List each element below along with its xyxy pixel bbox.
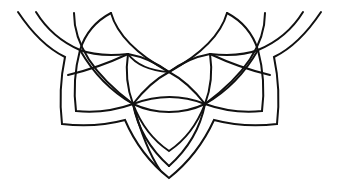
left-band-lower-cross [133,104,205,112]
left-wing-side [133,97,205,104]
outer-band-outer-line [18,12,321,178]
artwork-canvas [0,0,339,183]
half-mandala-illustration [0,0,339,183]
right-top-vertical-arc [205,13,265,104]
left-top-vertical-arc [74,13,133,104]
left-tip-outer-arc [111,13,227,72]
